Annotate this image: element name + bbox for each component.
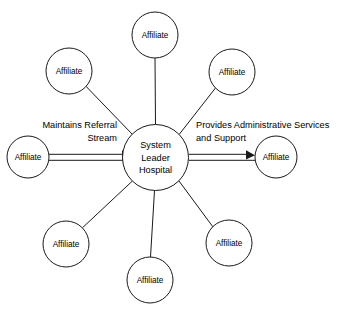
- affiliate-node-left[interactable]: Affiliate: [7, 136, 49, 178]
- affiliate-label-bottom-left: Affiliate: [53, 240, 80, 249]
- edge-label-left-line-2: Stream: [87, 133, 117, 143]
- flow-arrow-left: [49, 150, 131, 160]
- edge-label-right-line-1: Provides Administrative Services: [196, 120, 330, 130]
- edge-label-provides-administrative-services: Provides Administrative Services and Sup…: [196, 120, 330, 143]
- affiliate-node-bottom-left[interactable]: Affiliate: [43, 221, 89, 267]
- hub-label-line-1: System: [140, 140, 171, 150]
- flow-arrow-right-arrowhead: [246, 150, 255, 159]
- affiliate-label-right: Affiliate: [263, 153, 290, 162]
- affiliate-node-top-right[interactable]: Affiliate: [209, 49, 255, 95]
- flow-arrow-right: [189, 150, 255, 160]
- edge-label-maintains-referral-stream: Maintains Referral Stream: [42, 120, 117, 143]
- affiliate-label-left: Affiliate: [15, 153, 42, 162]
- hub-label-line-3: Hospital: [139, 165, 172, 175]
- affiliate-label-bottom: Affiliate: [137, 276, 164, 285]
- spoke-line-top: [155, 58, 156, 125]
- affiliate-node-bottom-right[interactable]: Affiliate: [206, 220, 252, 266]
- diagram-canvas: Affiliate Affiliate Affiliate Affiliate …: [0, 0, 354, 312]
- affiliate-node-top[interactable]: Affiliate: [132, 12, 178, 58]
- hub-and-spoke-diagram: Affiliate Affiliate Affiliate Affiliate …: [0, 0, 354, 312]
- edge-label-left-line-1: Maintains Referral: [42, 120, 117, 130]
- affiliate-node-top-left[interactable]: Affiliate: [46, 48, 92, 94]
- affiliate-node-bottom[interactable]: Affiliate: [127, 257, 173, 303]
- hub-node-system-leader-hospital[interactable]: System Leader Hospital: [123, 125, 189, 191]
- spoke-line-bottom-left: [82, 181, 132, 228]
- affiliate-node-right[interactable]: Affiliate: [255, 136, 297, 178]
- spoke-line-bottom-right: [179, 181, 213, 227]
- affiliate-label-top-right: Affiliate: [219, 68, 246, 77]
- affiliate-label-bottom-right: Affiliate: [216, 239, 243, 248]
- affiliate-label-top: Affiliate: [142, 31, 169, 40]
- affiliate-label-top-left: Affiliate: [56, 67, 83, 76]
- hub-label-line-2: Leader: [141, 153, 170, 163]
- spoke-line-bottom: [151, 191, 155, 258]
- edge-label-right-line-2: and Support: [196, 133, 247, 143]
